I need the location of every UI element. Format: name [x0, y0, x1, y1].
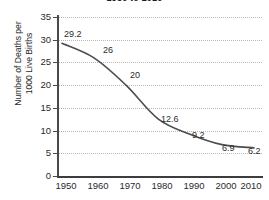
point-label-1950: 29.2 [64, 29, 82, 39]
point-label-2000: 6.9 [222, 143, 235, 153]
gridline-35 [59, 17, 262, 18]
point-label-1970: 20 [130, 70, 140, 80]
y-tick-mark-35 [53, 17, 58, 18]
y-tick-label-25: 25 [11, 56, 51, 67]
infant-mortality-line-chart: 1950 to 2010 Number of Deaths per 1000 L… [0, 0, 269, 200]
y-tick-mark-30 [53, 40, 58, 41]
gridline-30 [59, 40, 262, 41]
y-tick-label-30: 30 [11, 34, 51, 45]
y-tick-mark-10 [53, 131, 58, 132]
point-label-1990: 9.2 [192, 130, 205, 140]
y-tick-mark-25 [53, 62, 58, 63]
gridline-10 [59, 131, 262, 132]
y-tick-label-35: 35 [11, 11, 51, 22]
chart-title: 1950 to 2010 [0, 0, 269, 3]
y-tick-label-15: 15 [11, 102, 51, 113]
y-tick-mark-20 [53, 85, 58, 86]
y-tick-label-0: 0 [11, 170, 51, 181]
y-tick-label-5: 5 [11, 147, 51, 158]
y-tick-mark-0 [53, 176, 58, 177]
y-tick-label-10: 10 [11, 125, 51, 136]
gridline-25 [59, 62, 262, 63]
y-tick-mark-15 [53, 108, 58, 109]
gridline-5 [59, 153, 262, 154]
y-tick-label-20: 20 [11, 79, 51, 90]
gridline-20 [59, 85, 262, 86]
point-label-1960: 26 [103, 45, 113, 55]
x-tick-label-2010: 2010 [231, 180, 269, 191]
x-axis-line [57, 176, 263, 178]
point-label-2010: 6.2 [248, 146, 261, 156]
point-label-1980: 12.6 [161, 114, 179, 124]
gridline-15 [59, 108, 262, 109]
y-tick-mark-5 [53, 153, 58, 154]
